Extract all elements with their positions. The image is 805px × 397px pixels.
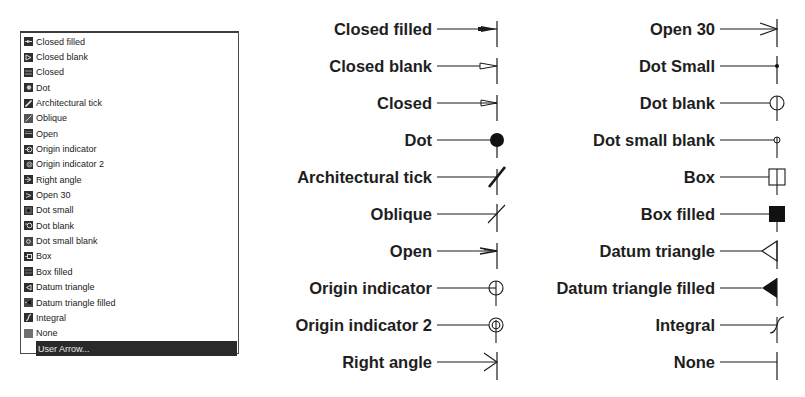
sample-label: Dot small blank [593,130,715,150]
list-item-closed-blank[interactable]: Closed blank [21,49,238,64]
list-item-label: Dot small [36,205,74,215]
sample-box: Box [520,167,715,193]
list-item-label: None [36,328,58,338]
list-item-right-angle[interactable]: Right angle [21,172,238,187]
sample-box-filled: Box filled [520,204,715,230]
list-item-label: Datum triangle [36,282,95,292]
closed-blank-arrow-icon [437,52,507,88]
list-item-label: Open 30 [36,190,71,200]
sample-open: Open [250,241,432,267]
sample-dot-blank: Dot blank [520,93,715,119]
list-item-dot-small-blank[interactable]: Dot small blank [21,233,238,248]
list-item-label: Closed [36,67,64,77]
datum-triangle-arrow-icon [720,237,795,273]
arrowhead-listbox[interactable]: Closed filled Closed blank Closed Dot Ar… [20,31,239,354]
list-item-integral[interactable]: Integral [21,310,238,325]
list-item-label: User Arrow... [38,344,90,354]
list-item-user-arrow[interactable]: User Arrow... [21,341,238,356]
list-item-open[interactable]: Open [21,126,238,141]
list-item-open-30[interactable]: Open 30 [21,187,238,202]
list-item-closed-filled[interactable]: Closed filled [21,34,238,49]
list-item-label: Dot small blank [36,236,98,246]
closed-filled-icon [24,37,33,46]
dot-icon [24,83,33,92]
sample-label: Origin indicator [309,278,432,298]
closed-icon [24,68,33,77]
list-item-label: Origin indicator [36,144,97,154]
sample-label: Dot [405,130,433,150]
architectural-tick-icon [24,99,33,108]
open-30-icon [24,191,33,200]
origin-indicator-arrow-icon [437,274,507,310]
list-item-box-filled[interactable]: Box filled [21,264,238,279]
dot-blank-icon [24,221,33,230]
closed-filled-arrow-icon [437,15,507,51]
origin-indicator-2-arrow-icon [437,311,507,347]
list-item-label: Architectural tick [36,98,102,108]
list-item-origin-indicator-2[interactable]: Origin indicator 2 [21,157,238,172]
list-item-architectural-tick[interactable]: Architectural tick [21,95,238,110]
list-item-none[interactable]: None [21,326,238,341]
sample-label: Oblique [371,204,432,224]
sample-label: Closed blank [329,56,432,76]
sample-label: None [674,352,715,372]
open-30-arrow-icon [720,15,795,51]
list-item-label: Box filled [36,267,73,277]
sample-label: Right angle [342,352,432,372]
box-icon [24,252,33,261]
closed-blank-icon [24,53,33,62]
none-icon [24,329,33,338]
integral-arrow-icon [720,311,795,347]
datum-triangle-filled-icon [24,298,33,307]
dot-small-arrow-icon [720,52,795,88]
closed-arrow-icon [437,89,507,125]
sample-label: Origin indicator 2 [295,315,432,335]
right-angle-arrow-icon [437,348,507,384]
list-item-oblique[interactable]: Oblique [21,111,238,126]
sample-label: Architectural tick [297,167,432,187]
oblique-arrow-icon [437,200,507,236]
sample-datum-triangle: Datum triangle [520,241,715,267]
list-item-dot[interactable]: Dot [21,80,238,95]
list-item-datum-triangle-filled[interactable]: Datum triangle filled [21,295,238,310]
sample-dot-small: Dot Small [520,56,715,82]
sample-oblique: Oblique [250,204,432,230]
open-arrow-icon [437,237,507,273]
sample-none: None [520,352,715,378]
datum-triangle-icon [24,283,33,292]
box-filled-arrow-icon [720,200,795,236]
sample-integral: Integral [520,315,715,341]
none-arrow-icon [720,348,795,384]
sample-closed-filled: Closed filled [250,19,432,45]
sample-label: Dot blank [640,93,715,113]
list-item-origin-indicator[interactable]: Origin indicator [21,141,238,156]
sample-closed: Closed [250,93,432,119]
sample-label: Open 30 [650,19,715,39]
list-item-label: Dot blank [36,221,74,231]
sample-open-30: Open 30 [520,19,715,45]
dot-small-blank-icon [24,237,33,246]
integral-icon [24,313,33,322]
list-item-label: Origin indicator 2 [36,159,104,169]
sample-closed-blank: Closed blank [250,56,432,82]
sample-label: Integral [655,315,715,335]
box-filled-icon [24,267,33,276]
sample-label: Open [390,241,432,261]
list-item-datum-triangle[interactable]: Datum triangle [21,280,238,295]
sample-dot-small-blank: Dot small blank [520,130,715,156]
list-item-label: Oblique [36,113,67,123]
sample-dot: Dot [250,130,432,156]
sample-label: Closed [377,93,432,113]
list-item-closed[interactable]: Closed [21,65,238,80]
architectural-tick-arrow-icon [437,163,507,199]
sample-label: Dot Small [639,56,715,76]
list-item-box[interactable]: Box [21,249,238,264]
sample-label: Datum triangle filled [556,278,715,298]
list-item-dot-blank[interactable]: Dot blank [21,218,238,233]
list-item-label: Box [36,251,52,261]
list-item-dot-small[interactable]: Dot small [21,203,238,218]
box-arrow-icon [720,163,795,199]
sample-label: Closed filled [334,19,432,39]
sample-label: Box [684,167,715,187]
sample-origin-indicator: Origin indicator [250,278,432,304]
